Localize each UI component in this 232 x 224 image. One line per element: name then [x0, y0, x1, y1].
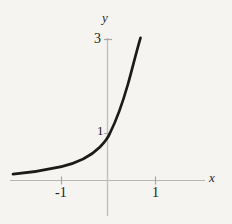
x-tick-label-1: 1 [152, 186, 159, 200]
y-axis-label: y [102, 11, 108, 24]
y-tick-label-3: 3 [94, 32, 101, 46]
coordinate-plot [0, 0, 232, 224]
x-tick-label-neg1: -1 [55, 186, 67, 200]
y-tick-label-1: 1 [97, 124, 104, 137]
graph-figure: y x 3 1 -1 1 [0, 0, 232, 224]
x-axis-label: x [209, 171, 215, 184]
exponential-curve [13, 38, 141, 174]
